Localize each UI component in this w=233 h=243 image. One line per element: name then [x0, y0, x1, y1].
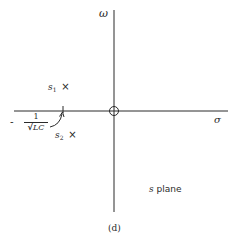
s-plane-word: plane	[154, 184, 182, 194]
lc-text: LC	[33, 123, 44, 132]
pole-s2-subscript: 1	[53, 86, 57, 93]
inverse-sqrt-lc-fraction: 1 √LC	[24, 113, 48, 132]
s-plane-diagram: ω σ s1 × s2 × - 1 √LC s plane (d)	[0, 0, 233, 243]
s-plane-label: s plane	[149, 185, 181, 194]
pole-s1-label: s2 ×	[55, 130, 77, 141]
fraction-denominator: √LC	[24, 123, 48, 132]
omega-axis-label: ω	[99, 8, 108, 19]
pole-s1-cross-icon: ×	[68, 129, 76, 140]
figure-caption: (d)	[108, 224, 121, 233]
pole-s2-label: s1 ×	[48, 82, 70, 93]
negative-sign: -	[10, 117, 14, 127]
fraction-numerator: 1	[24, 113, 48, 123]
sigma-axis-label: σ	[214, 115, 221, 125]
pole-s1-subscript: 2	[60, 134, 64, 141]
pole-s2-cross-icon: ×	[61, 81, 69, 92]
